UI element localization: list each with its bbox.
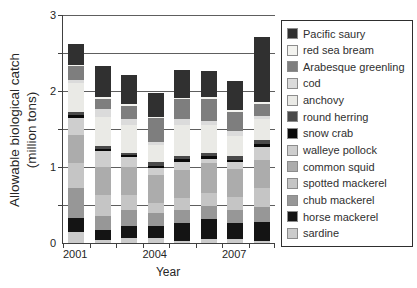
x-tick-label-2007: 2007	[212, 248, 256, 260]
x-axis-tick	[249, 244, 250, 248]
legend-label: walleye pollock	[303, 144, 377, 156]
y-axis-title-line1: Allowable biological catch	[6, 53, 23, 207]
bar-segment-chub-mackerel	[254, 207, 270, 222]
bar-segment-chub-mackerel	[121, 210, 137, 227]
plot-area	[62, 15, 275, 244]
bar-segment-horse-mackerel	[174, 223, 190, 240]
bar-segment-sardine	[227, 239, 243, 243]
bar-segment-spotted-mackerel	[227, 197, 243, 209]
bar-segment-horse-mackerel	[254, 222, 270, 242]
bar-segment-common-squid	[254, 160, 270, 187]
legend-label: common squid	[303, 161, 375, 173]
bar-segment-chub-mackerel	[227, 210, 243, 224]
legend-item-chub-mackerel: chub mackerel	[287, 193, 407, 208]
bar-segment-sardine	[201, 239, 217, 243]
bar-segment-horse-mackerel	[68, 218, 84, 232]
legend-item-common-squid: common squid	[287, 159, 407, 174]
bar-segment-common-squid	[68, 135, 84, 163]
legend-label: chub mackerel	[303, 194, 375, 206]
legend-label: Arabesque greenling	[303, 61, 405, 73]
bar-segment-horse-mackerel	[148, 226, 164, 238]
bar-segment-chub-mackerel	[68, 188, 84, 218]
legend-label: Pacific saury	[303, 28, 365, 40]
y-axis-tick	[58, 91, 62, 92]
bar-segment-horse-mackerel	[95, 230, 111, 240]
bar-segment-common-squid	[148, 175, 164, 203]
y-axis-tick	[58, 15, 62, 16]
bar-segment-walleye-pollock	[148, 168, 164, 175]
y-axis-tick	[58, 205, 62, 206]
legend-item-red-sea-bream: red sea bream	[287, 43, 407, 58]
bar-segment-sardine	[174, 241, 190, 243]
bar-segment-arabesque-greenling	[174, 99, 190, 119]
legend-swatch-icon	[287, 28, 298, 39]
bar-segment-spotted-mackerel	[254, 188, 270, 207]
bar-2004	[148, 93, 164, 243]
legend-swatch-icon	[287, 228, 298, 239]
x-axis-tick	[169, 244, 170, 248]
legend-swatch-icon	[287, 178, 298, 189]
bar-segment-common-squid	[95, 167, 111, 195]
bar-segment-common-squid	[227, 169, 243, 198]
legend-label: round herring	[303, 111, 368, 123]
x-axis-tick	[90, 244, 91, 248]
bar-segment-pacific-saury	[95, 66, 111, 97]
bar-segment-pacific-saury	[121, 75, 137, 104]
legend-label: cod	[303, 77, 321, 89]
bar-segment-anchovy	[68, 83, 84, 111]
bar-segment-arabesque-greenling	[121, 106, 137, 120]
legend-label: anchovy	[303, 94, 344, 106]
bar-segment-spotted-mackerel	[95, 195, 111, 216]
gridline	[63, 15, 275, 16]
y-axis-title: Allowable biological catch (million tons…	[6, 53, 40, 207]
bar-segment-horse-mackerel	[201, 219, 217, 239]
bar-segment-chub-mackerel	[201, 206, 217, 220]
bar-segment-spotted-mackerel	[121, 195, 137, 209]
bar-2007	[227, 81, 243, 243]
y-tick-label-2: 2	[38, 84, 56, 98]
legend-swatch-icon	[287, 78, 298, 89]
bar-segment-anchovy	[95, 117, 111, 146]
chart-figure: Allowable biological catch (million tons…	[0, 0, 417, 288]
bar-segment-arabesque-greenling	[148, 118, 164, 142]
legend-label: horse mackerel	[303, 211, 378, 223]
bar-2001	[68, 44, 84, 243]
bar-segment-sardine	[148, 238, 164, 243]
y-tick-label-1: 1	[38, 160, 56, 174]
y-axis-tick	[58, 53, 62, 54]
legend-item-pacific-saury: Pacific saury	[287, 26, 407, 41]
bar-2008	[254, 37, 270, 243]
bar-segment-pacific-saury	[227, 81, 243, 110]
bar-segment-pacific-saury	[254, 37, 270, 102]
bar-segment-walleye-pollock	[121, 157, 137, 167]
bar-segment-sardine	[95, 240, 111, 243]
bar-2006	[201, 71, 217, 243]
legend: Pacific sauryred sea breamArabesque gree…	[281, 20, 413, 247]
bar-segment-arabesque-greenling	[201, 99, 217, 121]
bar-segment-anchovy	[121, 125, 137, 152]
legend-item-sardine: sardine	[287, 226, 407, 241]
bar-segment-pacific-saury	[201, 71, 217, 98]
bar-segment-cod	[95, 109, 111, 117]
legend-label: snow crab	[303, 127, 353, 139]
bar-segment-pacific-saury	[148, 93, 164, 117]
bar-segment-sardine	[121, 238, 137, 243]
legend-swatch-icon	[287, 95, 298, 106]
legend-swatch-icon	[287, 45, 298, 56]
bar-segment-walleye-pollock	[95, 151, 111, 167]
gridline	[63, 53, 275, 54]
legend-label: red sea bream	[303, 44, 374, 56]
x-axis-tick	[274, 244, 275, 248]
y-axis-title-line2: (million tons)	[23, 53, 40, 207]
bar-segment-sardine	[254, 241, 270, 243]
y-axis-tick	[58, 129, 62, 130]
bar-segment-anchovy	[201, 125, 217, 153]
y-axis-tick	[58, 167, 62, 168]
legend-item-horse-mackerel: horse mackerel	[287, 209, 407, 224]
bar-segment-spotted-mackerel	[201, 193, 217, 206]
bar-segment-arabesque-greenling	[227, 112, 243, 132]
bar-segment-walleye-pollock	[254, 147, 270, 160]
legend-swatch-icon	[287, 128, 298, 139]
legend-item-walleye-pollock: walleye pollock	[287, 143, 407, 158]
bar-segment-spotted-mackerel	[68, 163, 84, 187]
